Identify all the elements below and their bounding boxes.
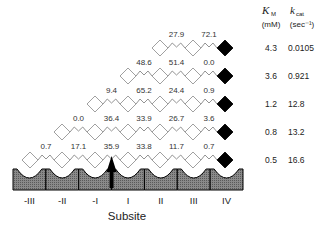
subsite-label: I bbox=[127, 195, 130, 206]
substrate-row: 48.651.40.0 bbox=[120, 58, 233, 84]
reducing-end-glucose-icon bbox=[217, 124, 233, 140]
substrate-row: 0.717.135.933.811.70.7 bbox=[22, 142, 233, 168]
glucose-unit-icon bbox=[185, 68, 201, 84]
reducing-end-glucose-icon bbox=[217, 152, 233, 168]
glucose-unit-icon bbox=[54, 124, 70, 140]
kinetic-table: 4.30.01053.60.9211.212.80.813.20.516.6KM… bbox=[261, 4, 315, 165]
glucose-unit-icon bbox=[185, 40, 201, 56]
kcat-value: 12.8 bbox=[288, 99, 305, 109]
subsite-label: -I bbox=[92, 195, 98, 206]
bond-cleavage-value: 0.9 bbox=[203, 86, 215, 95]
glucose-unit-icon bbox=[152, 96, 168, 112]
kcat-value: 16.6 bbox=[288, 155, 305, 165]
bond-cleavage-value: 0.0 bbox=[73, 114, 85, 123]
subsite-label: IV bbox=[222, 195, 232, 206]
bond-cleavage-value: 48.6 bbox=[136, 58, 152, 67]
km-value: 0.8 bbox=[265, 127, 277, 137]
glucose-unit-icon bbox=[120, 152, 136, 168]
glucose-unit-icon bbox=[120, 96, 136, 112]
bond-cleavage-value: 24.4 bbox=[169, 86, 185, 95]
subsite-block bbox=[144, 169, 177, 190]
glucose-unit-icon bbox=[120, 124, 136, 140]
bond-cleavage-value: 33.8 bbox=[136, 142, 152, 151]
bond-cleavage-value: 36.4 bbox=[104, 114, 120, 123]
bond-cleavage-value: 11.7 bbox=[169, 142, 185, 151]
bond-cleavage-value: 65.2 bbox=[136, 86, 152, 95]
bond-cleavage-value: 72.1 bbox=[201, 30, 217, 39]
glucose-unit-icon bbox=[152, 124, 168, 140]
glucose-unit-icon bbox=[185, 152, 201, 168]
bond-cleavage-value: 0.0 bbox=[203, 58, 215, 67]
reducing-end-glucose-icon bbox=[217, 40, 233, 56]
km-value: 0.5 bbox=[265, 155, 277, 165]
bond-cleavage-value: 0.7 bbox=[40, 142, 52, 151]
km-value: 3.6 bbox=[265, 71, 277, 81]
subsite-block bbox=[46, 169, 79, 190]
kcat-value: 0.0105 bbox=[288, 43, 314, 53]
glucose-unit-icon bbox=[87, 96, 103, 112]
subsite-block bbox=[13, 169, 46, 190]
km-header: K bbox=[261, 4, 270, 16]
glucose-unit-icon bbox=[152, 40, 168, 56]
glucose-unit-icon bbox=[185, 96, 201, 112]
kcat-value: 0.921 bbox=[288, 71, 310, 81]
reducing-end-glucose-icon bbox=[217, 96, 233, 112]
km-value: 1.2 bbox=[265, 99, 277, 109]
glucose-unit-icon bbox=[120, 68, 136, 84]
bond-cleavage-value: 3.6 bbox=[203, 114, 215, 123]
subsite-label: III bbox=[190, 195, 198, 206]
bond-cleavage-value: 33.9 bbox=[136, 114, 152, 123]
glucose-unit-icon bbox=[22, 152, 38, 168]
kcat-unit: (sec⁻¹) bbox=[290, 20, 315, 29]
km-subscript: M bbox=[271, 11, 276, 17]
substrate-row: 9.465.224.40.9 bbox=[87, 86, 233, 112]
subsite-label: -II bbox=[58, 195, 66, 206]
axis-title: Subsite bbox=[108, 210, 146, 222]
bond-cleavage-value: 26.7 bbox=[169, 114, 185, 123]
bond-cleavage-value: 9.4 bbox=[106, 86, 118, 95]
substrate-row: 0.036.433.926.73.6 bbox=[54, 114, 233, 140]
km-unit: (mM) bbox=[262, 20, 281, 29]
oligosaccharide-rows: 27.972.148.651.40.09.465.224.40.90.036.4… bbox=[22, 30, 233, 168]
glucose-unit-icon bbox=[185, 124, 201, 140]
glucose-unit-icon bbox=[87, 152, 103, 168]
subsite-label: -III bbox=[24, 195, 35, 206]
glucose-unit-icon bbox=[54, 152, 70, 168]
substrate-row: 27.972.1 bbox=[152, 30, 233, 56]
subsite-block bbox=[112, 169, 145, 190]
km-value: 4.3 bbox=[265, 43, 277, 53]
reducing-end-glucose-icon bbox=[217, 68, 233, 84]
bond-cleavage-value: 35.9 bbox=[104, 142, 120, 151]
subsite-axis: -III-II-IIIIIIIIVSubsite bbox=[24, 195, 232, 222]
kcat-value: 13.2 bbox=[288, 127, 305, 137]
subsite-block bbox=[79, 169, 112, 190]
subsite-block bbox=[177, 169, 210, 190]
bond-cleavage-value: 51.4 bbox=[169, 58, 185, 67]
subsite-diagram: 27.972.148.651.40.09.465.224.40.90.036.4… bbox=[0, 0, 320, 227]
glucose-unit-icon bbox=[152, 68, 168, 84]
subsite-block bbox=[210, 169, 243, 190]
bond-cleavage-value: 17.1 bbox=[71, 142, 87, 151]
bond-cleavage-value: 0.7 bbox=[203, 142, 215, 151]
glucose-unit-icon bbox=[87, 124, 103, 140]
subsite-label: II bbox=[158, 195, 163, 206]
kcat-subscript: cat bbox=[296, 11, 304, 17]
bond-cleavage-value: 27.9 bbox=[169, 30, 185, 39]
glucose-unit-icon bbox=[152, 152, 168, 168]
